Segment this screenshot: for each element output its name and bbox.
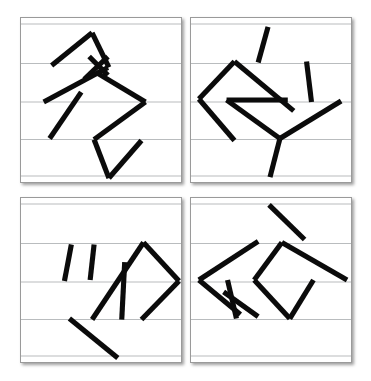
stroke-6-right-wedge-top <box>96 72 145 102</box>
stroke-1-left-short-vertical <box>64 244 71 281</box>
panel-bottom-right <box>190 197 352 363</box>
stroke-1-top-short-diagonal <box>258 27 268 63</box>
stroke-group <box>44 33 146 178</box>
stroke-4-long-right-down <box>234 61 293 110</box>
rule-lines <box>21 204 181 356</box>
panel-bottom-left <box>20 197 182 363</box>
stroke-10-lower-v-right <box>109 141 142 179</box>
stroke-6-inner-vertical <box>122 262 125 319</box>
stroke-2-second-short-vertical <box>90 244 94 280</box>
panel-bottom-right-drawing <box>191 198 351 362</box>
stroke-6-mid-arrow-upper <box>254 242 282 280</box>
stroke-4-diamond-upper-right <box>143 242 179 281</box>
panel-top-right-drawing <box>191 18 351 182</box>
stroke-7-bottom-long-diagonal <box>69 319 117 359</box>
panel-bottom-left-drawing <box>21 198 181 362</box>
stroke-7-mid-arrow-lower <box>254 280 290 319</box>
stroke-1-upper-left-diagonal <box>52 33 92 66</box>
stroke-1-top-right-diagonal <box>269 205 305 240</box>
stroke-3-diamond-upper-left <box>92 242 143 319</box>
image-canvas <box>0 0 371 381</box>
stroke-9-right-vertical <box>290 280 314 319</box>
stroke-9-lower-v-left <box>94 140 109 179</box>
stroke-6-inner-arrow-lower <box>227 100 280 139</box>
stroke-7-right-vertical <box>307 61 312 102</box>
stroke-group <box>64 242 179 358</box>
stroke-2-left-wedge-upper <box>199 241 258 280</box>
panel-top-left-drawing <box>21 18 181 182</box>
panel-top-right <box>190 17 352 183</box>
stroke-7-right-wedge-bottom <box>94 102 145 140</box>
panel-top-left <box>20 17 182 183</box>
stroke-group <box>199 205 347 319</box>
stroke-9-bottom-tail <box>270 139 280 178</box>
stroke-3-big-wedge-lower <box>199 99 235 140</box>
stroke-2-big-wedge-upper <box>199 61 235 99</box>
rule-lines <box>191 204 351 356</box>
stroke-8-long-right-diagonal <box>282 242 347 280</box>
stroke-5-diamond-lower-right <box>141 281 179 320</box>
